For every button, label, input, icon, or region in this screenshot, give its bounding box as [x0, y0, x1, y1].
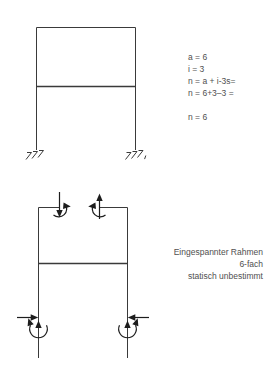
- vertical-force-arrowhead: [124, 321, 130, 329]
- cut-internal-forces: [54, 192, 106, 219]
- frame-outline: [39, 208, 128, 359]
- horizontal-force-arrowhead: [128, 314, 136, 320]
- formula-line-i: i = 3: [188, 63, 274, 75]
- top-frame-figure: [26, 28, 146, 160]
- formula-result: n = 6: [188, 111, 274, 123]
- fixed-support-left: [26, 151, 44, 160]
- formula-line-n-values: n = 6+3–3 =: [188, 87, 274, 99]
- formula-line-n: n = a + i-3s=: [188, 75, 274, 87]
- formula-line-a: a = 6: [188, 51, 274, 63]
- support-reactions-left: [17, 314, 47, 337]
- horizontal-force-arrowhead: [31, 314, 39, 320]
- shear-up-arrowhead: [96, 194, 102, 202]
- stray-mark: [145, 156, 146, 160]
- page: a = 6 i = 3 n = a + i-3s= n = 6+3–3 = n …: [0, 0, 280, 376]
- caption-block: Eingespannter Rahmen 6-fach statisch unb…: [113, 246, 263, 282]
- support-reactions-right: [119, 314, 149, 337]
- frame-outline: [37, 28, 136, 151]
- caption-line-3: statisch unbestimmt: [113, 270, 263, 282]
- caption-line-1: Eingespannter Rahmen: [113, 246, 263, 258]
- support-hatching: [26, 151, 44, 160]
- formula-block: a = 6 i = 3 n = a + i-3s= n = 6+3–3 = n …: [188, 51, 274, 123]
- fixed-support-right: [126, 151, 146, 160]
- caption-line-2: 6-fach: [113, 258, 263, 270]
- support-hatching: [126, 151, 144, 160]
- vertical-force-arrowhead: [35, 321, 41, 329]
